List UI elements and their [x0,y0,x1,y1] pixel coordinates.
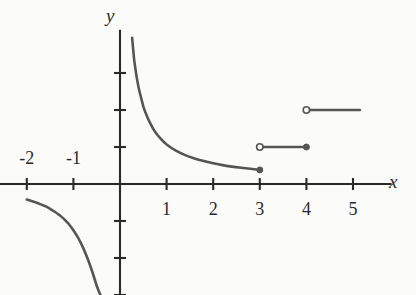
x-tick-label-1: 1 [147,200,187,218]
series-hyperbola-branch-positive [132,38,260,170]
graph-figure: y x -2-112345 [0,0,416,295]
x-tick-label-4: 4 [286,200,326,218]
open-point-step-segment-1-start [257,144,263,150]
x-tick-label--2: -2 [7,149,47,167]
filled-point-step-segment-1-end [303,144,309,150]
y-axis-label: y [106,6,114,25]
markers-group [257,107,310,173]
x-tick-label-3: 3 [240,200,280,218]
x-tick-label-5: 5 [333,200,373,218]
series-hyperbola-branch-negative [27,200,101,295]
plot-canvas [0,0,416,295]
x-tick-label--1: -1 [53,149,93,167]
filled-point-hyperbola-branch-positive-end [257,167,263,173]
open-point-step-segment-2-start [303,107,309,113]
x-axis-label: x [389,172,397,191]
x-tick-label-2: 2 [193,200,233,218]
